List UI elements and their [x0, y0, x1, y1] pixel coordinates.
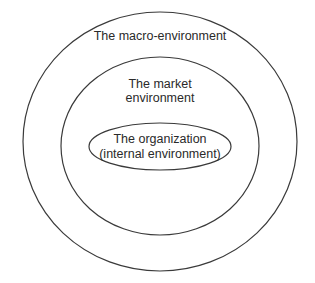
organization-layer: The organization (internal environment): [89, 123, 231, 170]
organization-label-line-1: The organization: [113, 132, 206, 146]
organization-label-line-2: (internal environment): [99, 147, 221, 161]
market-environment-label-line-1: The market: [128, 77, 192, 91]
market-environment-layer: The market environment: [61, 57, 259, 235]
market-environment-label-line-2: environment: [126, 91, 195, 105]
environment-layers-diagram: The macro-environment The market environ…: [0, 0, 315, 283]
macro-environment-label: The macro-environment: [94, 29, 227, 43]
